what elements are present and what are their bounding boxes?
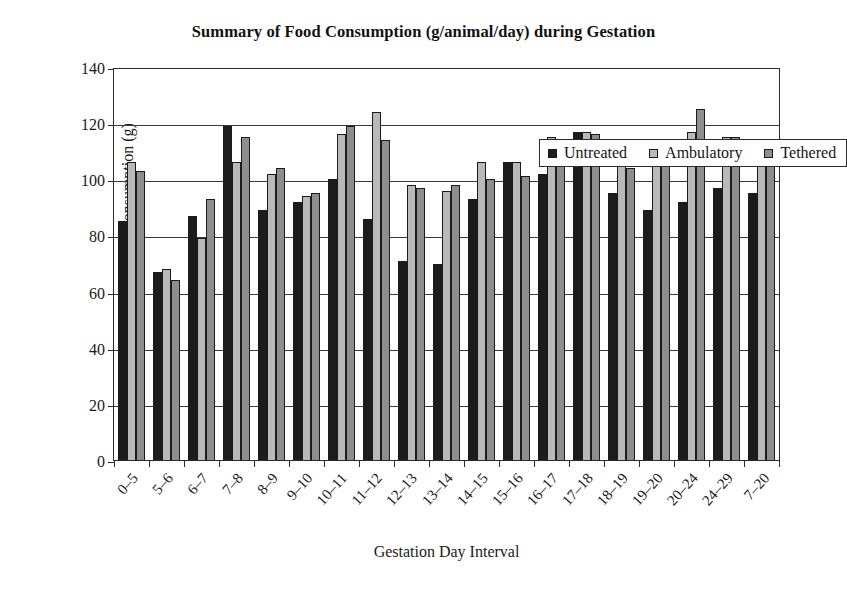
- bar: [687, 132, 696, 460]
- bar-group: [289, 69, 324, 460]
- x-tick-mark: [219, 460, 220, 467]
- x-tick-mark: [534, 460, 535, 467]
- legend-item-ambulatory: Ambulatory: [649, 144, 742, 162]
- bar-group: [184, 69, 219, 460]
- bar: [486, 179, 495, 460]
- x-tick-label: 8–9: [254, 470, 282, 498]
- bar: [433, 264, 442, 461]
- legend-label-tethered: Tethered: [780, 144, 836, 162]
- x-tick-mark: [429, 460, 430, 467]
- bar: [381, 140, 390, 460]
- plot-area: Food Consumption (g) 140120100806040200 …: [113, 68, 780, 461]
- x-tick-mark: [569, 460, 570, 467]
- bar-group: [569, 69, 604, 460]
- bar-group: [114, 69, 149, 460]
- bar-group: [149, 69, 184, 460]
- bar-group: [359, 69, 394, 460]
- bar-group: [254, 69, 289, 460]
- bar: [258, 210, 267, 460]
- bar: [171, 280, 180, 460]
- bar: [722, 137, 731, 460]
- bar: [538, 174, 547, 460]
- y-tick-label: 0: [97, 453, 105, 471]
- x-tick-cell: 5–6: [148, 470, 183, 540]
- bar: [328, 179, 337, 460]
- bar: [302, 196, 311, 460]
- x-tick-cell: 12–13: [394, 470, 429, 540]
- bar: [512, 162, 521, 460]
- bar: [398, 261, 407, 460]
- y-tick-label: 100: [81, 172, 105, 190]
- bar: [468, 199, 477, 460]
- x-tick-mark: [639, 460, 640, 467]
- chart-title: Summary of Food Consumption (g/animal/da…: [0, 22, 847, 42]
- bar: [136, 171, 145, 460]
- x-tick-cell: 11–12: [359, 470, 394, 540]
- bar: [197, 238, 206, 460]
- bar: [766, 162, 775, 460]
- x-tick-mark: [744, 460, 745, 467]
- legend-item-untreated: Untreated: [548, 144, 627, 162]
- x-tick-label: 0–5: [114, 470, 142, 498]
- y-tick-label: 60: [89, 285, 105, 303]
- x-axis-tick-labels: 0–55–66–77–88–99–1010–1111–1212–1313–141…: [113, 470, 780, 540]
- x-tick-mark: [184, 460, 185, 467]
- bar-group: [394, 69, 429, 460]
- x-axis-title: Gestation Day Interval: [113, 543, 780, 561]
- x-tick-cell: 7–20: [745, 470, 780, 540]
- bar: [661, 157, 670, 460]
- x-tick-mark: [674, 460, 675, 467]
- x-tick-cell: 7–8: [218, 470, 253, 540]
- legend-label-untreated: Untreated: [564, 144, 627, 162]
- x-tick-cell: 6–7: [183, 470, 218, 540]
- bars-layer: [114, 69, 779, 460]
- bar-chart: Summary of Food Consumption (g/animal/da…: [0, 0, 847, 590]
- bar: [337, 134, 346, 460]
- bar: [442, 191, 451, 460]
- legend: Untreated Ambulatory Tethered: [539, 139, 847, 167]
- bar: [223, 126, 232, 460]
- bar-group: [464, 69, 499, 460]
- x-tick-cell: 15–16: [499, 470, 534, 540]
- bar: [582, 132, 591, 460]
- x-tick-label: 7–20: [740, 470, 773, 504]
- bar: [477, 162, 486, 460]
- bar: [521, 176, 530, 460]
- bar: [206, 199, 215, 460]
- x-tick-mark: [464, 460, 465, 467]
- bar: [617, 160, 626, 460]
- x-tick-mark: [324, 460, 325, 467]
- bar: [556, 154, 565, 460]
- y-tick-label: 20: [89, 397, 105, 415]
- x-tick-mark: [254, 460, 255, 467]
- legend-swatch-icon-tethered: [764, 149, 773, 158]
- x-tick-cell: 18–19: [605, 470, 640, 540]
- x-tick-cell: 9–10: [289, 470, 324, 540]
- bar-group: [429, 69, 464, 460]
- x-tick-cell: 16–17: [534, 470, 569, 540]
- x-tick-mark: [709, 460, 710, 467]
- y-tick-label: 140: [81, 60, 105, 78]
- x-tick-mark: [359, 460, 360, 467]
- bar: [503, 162, 512, 460]
- bar: [241, 137, 250, 460]
- bar-group: [534, 69, 569, 460]
- x-tick-label: 5–6: [149, 470, 177, 498]
- x-tick-cell: 17–18: [569, 470, 604, 540]
- x-tick-mark: [114, 460, 115, 467]
- y-tick-label: 80: [89, 228, 105, 246]
- bar: [748, 193, 757, 460]
- legend-item-tethered: Tethered: [764, 144, 836, 162]
- x-tick-label: 9–10: [284, 470, 317, 504]
- bar: [713, 188, 722, 460]
- bar: [372, 112, 381, 460]
- bar: [678, 202, 687, 460]
- legend-swatch-icon-untreated: [548, 149, 557, 158]
- x-tick-cell: 14–15: [464, 470, 499, 540]
- bar-group: [744, 69, 779, 460]
- bar: [608, 193, 617, 460]
- bar-group: [709, 69, 744, 460]
- bar: [591, 134, 600, 460]
- x-tick-mark: [779, 460, 780, 467]
- y-tick-label: 120: [81, 116, 105, 134]
